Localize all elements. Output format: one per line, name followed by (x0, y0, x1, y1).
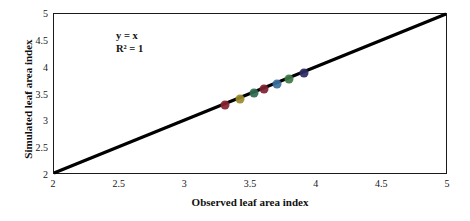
data-point-marker (236, 94, 245, 103)
y-tick-label: 2 (20, 169, 48, 180)
data-point-marker (260, 85, 269, 94)
x-tick-label: 3.5 (244, 178, 257, 189)
annotation-r-squared: R² = 1 (116, 43, 143, 56)
y-tick-label: 2.5 (20, 142, 48, 153)
data-point-marker (273, 79, 282, 88)
plot-area: y = x R² = 1 (53, 13, 447, 174)
scatter-chart-figure: Simulated leaf area index 22.533.544.55 … (0, 0, 470, 221)
data-point-marker (249, 89, 258, 98)
x-tick-label: 3 (182, 178, 187, 189)
x-tick-label: 4.5 (375, 178, 388, 189)
chart-annotation: y = x R² = 1 (116, 30, 143, 55)
data-point-marker (285, 74, 294, 83)
annotation-equation: y = x (116, 30, 143, 43)
data-point-marker (299, 69, 308, 78)
x-tick-label: 5 (445, 178, 450, 189)
x-axis-title: Observed leaf area index (53, 196, 447, 208)
y-tick-label: 3 (20, 115, 48, 126)
x-tick-label: 2 (51, 178, 56, 189)
y-tick-label: 3.5 (20, 88, 48, 99)
y-tick-label: 4.5 (20, 34, 48, 45)
y-tick-label: 5 (20, 8, 48, 19)
data-point-marker (220, 101, 229, 110)
x-tick-label: 2.5 (112, 178, 125, 189)
y-tick-label: 4 (20, 61, 48, 72)
x-tick-label: 4 (313, 178, 318, 189)
